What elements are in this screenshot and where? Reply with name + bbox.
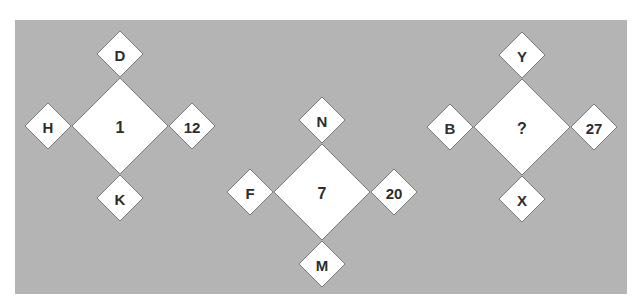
diamond-group-2: NF20M7 xyxy=(227,97,417,287)
bottom-diamond-label: M xyxy=(316,257,329,274)
right-diamond-label: 12 xyxy=(184,119,201,136)
diamond-puzzle-diagram: DH12K1NF20M7YB27X? xyxy=(0,0,644,306)
left-diamond-label: F xyxy=(245,185,254,202)
diamond-group-1: DH12K1 xyxy=(25,31,215,221)
top-diamond-label: D xyxy=(115,47,126,64)
bottom-diamond-label: X xyxy=(517,192,527,209)
right-diamond-label: 27 xyxy=(586,120,603,137)
center-diamond-label: 7 xyxy=(318,185,327,202)
right-diamond-label: 20 xyxy=(386,185,403,202)
left-diamond-label: B xyxy=(445,120,456,137)
center-diamond-label: ? xyxy=(517,120,527,137)
top-diamond-label: N xyxy=(317,113,328,130)
top-diamond-label: Y xyxy=(517,48,527,65)
center-diamond-label: 1 xyxy=(116,119,125,136)
diamond-group-3: YB27X? xyxy=(427,32,617,222)
bottom-diamond-label: K xyxy=(115,191,126,208)
left-diamond-label: H xyxy=(43,119,54,136)
